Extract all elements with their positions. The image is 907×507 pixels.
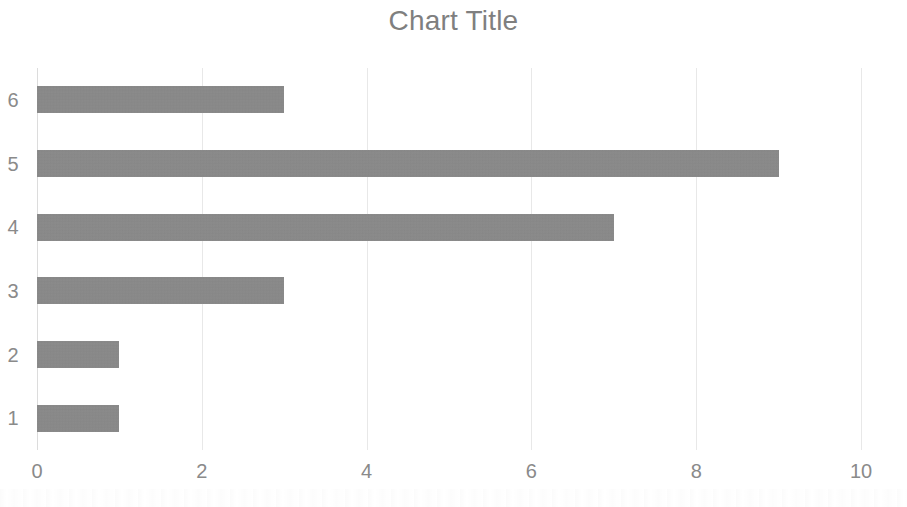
bar[interactable] [37, 405, 119, 432]
y-tick-label: 4 [0, 216, 26, 238]
bar[interactable] [37, 341, 119, 368]
x-tick-label: 0 [7, 459, 67, 483]
y-tick-label: 1 [0, 407, 26, 429]
bar-chart: Chart Title 0246810 654321 [0, 0, 907, 507]
bar-row [37, 214, 861, 241]
x-tick-label: 10 [831, 459, 891, 483]
x-tick-label: 8 [666, 459, 726, 483]
scan-noise [0, 489, 907, 507]
gridline-x-10 [861, 68, 862, 450]
bar-row [37, 86, 861, 113]
x-tick-label: 6 [501, 459, 561, 483]
chart-title: Chart Title [0, 4, 907, 38]
x-tick-label: 4 [337, 459, 397, 483]
bar-row [37, 341, 861, 368]
y-tick-label: 3 [0, 280, 26, 302]
bar[interactable] [37, 277, 284, 304]
bars-layer [37, 68, 861, 450]
bar-row [37, 150, 861, 177]
plot-area [37, 68, 861, 450]
bar-row [37, 405, 861, 432]
bar-row [37, 277, 861, 304]
bar[interactable] [37, 150, 779, 177]
bar[interactable] [37, 86, 284, 113]
y-tick-label: 2 [0, 344, 26, 366]
y-tick-label: 5 [0, 153, 26, 175]
bar[interactable] [37, 214, 614, 241]
y-tick-label: 6 [0, 89, 26, 111]
x-tick-label: 2 [172, 459, 232, 483]
